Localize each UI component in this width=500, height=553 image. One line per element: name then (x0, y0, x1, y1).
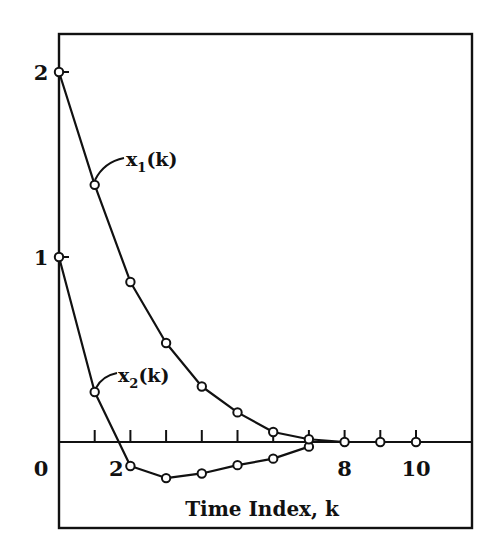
series-x1-markers (55, 68, 420, 446)
data-point-marker (376, 438, 384, 446)
data-point-marker (412, 438, 420, 446)
series-x2-line (59, 257, 309, 478)
x-axis-ticks (95, 430, 416, 442)
series-x2-label: x2(k) (118, 364, 170, 391)
y-tick-label: 2 (34, 60, 49, 85)
x-tick-label: 2 (109, 456, 124, 481)
series-x2-markers (55, 253, 313, 482)
series-x1-line (59, 72, 416, 442)
data-point-marker (305, 435, 313, 443)
data-point-marker (233, 408, 241, 416)
data-point-marker (198, 382, 206, 390)
data-point-marker (126, 278, 134, 286)
data-point-marker (162, 339, 170, 347)
data-point-marker (162, 474, 170, 482)
chart-canvas: 2810 012 x1(k) x2(k) Time Index, k (0, 0, 500, 553)
data-point-marker (55, 68, 63, 76)
x-axis-title: Time Index, k (185, 497, 340, 521)
data-point-marker (126, 462, 134, 470)
y-tick-label: 1 (34, 245, 49, 270)
data-point-marker (269, 428, 277, 436)
data-point-marker (198, 469, 206, 477)
x-tick-label: 10 (401, 456, 430, 481)
data-point-marker (269, 454, 277, 462)
x-tick-label: 8 (337, 456, 352, 481)
data-point-marker (55, 253, 63, 261)
data-point-marker (91, 181, 99, 189)
y-tick-label: 0 (34, 456, 49, 481)
y-axis-tick-labels: 012 (34, 60, 49, 481)
series-x1-label: x1(k) (126, 148, 178, 175)
plot-frame (59, 34, 472, 528)
series-x1-label-leader (95, 158, 124, 180)
series-x2-label-leader (96, 373, 117, 388)
data-point-marker (91, 388, 99, 396)
data-point-marker (233, 461, 241, 469)
data-point-marker (340, 438, 348, 446)
